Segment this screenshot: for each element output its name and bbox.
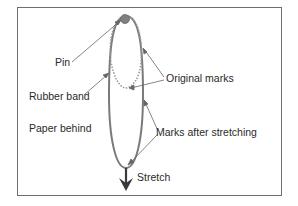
marks-after-stretching-label: Marks after stretching [156, 126, 257, 138]
stretched-rubber-band [109, 16, 143, 168]
marks-after-leader-2 [130, 134, 158, 163]
original-marks-label: Original marks [166, 72, 234, 84]
rubber-band-label: Rubber band [29, 90, 90, 102]
stretch-label: Stretch [137, 171, 170, 183]
paper-behind-label: Paper behind [29, 122, 91, 134]
pin-label: Pin [55, 56, 70, 68]
original-marks-leader-1 [144, 49, 164, 77]
pin-icon [121, 15, 130, 24]
pin-leader [72, 21, 120, 62]
original-marks-leader-1-arrowhead [143, 48, 147, 54]
marks-after-leader-1-arrowhead [144, 100, 148, 106]
